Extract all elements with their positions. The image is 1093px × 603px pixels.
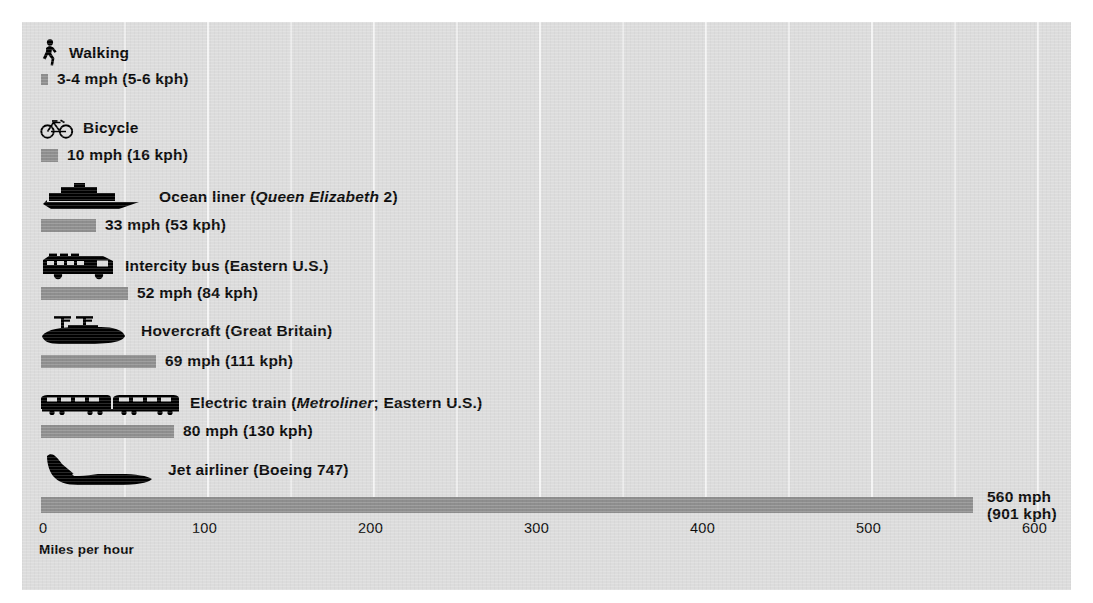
x-tick-600: 600 [1022, 520, 1047, 536]
row-intercity-bus-bar-line: 52 mph (84 kph) [41, 284, 258, 302]
x-tick-400: 400 [690, 520, 715, 536]
intercity-bus-icon [41, 252, 115, 280]
jet-airliner-icon [44, 452, 158, 488]
row-bicycle-header: Bicycle [40, 117, 139, 139]
bar-hovercraft [41, 355, 156, 368]
series-label-electric-train: Electric train (Metroliner; Eastern U.S.… [190, 394, 482, 412]
chart-panel: Walking 3-4 mph (5-6 kph) Bicycle [22, 22, 1071, 590]
gridline-minor-250 [456, 22, 458, 511]
x-axis-title: Miles per hour [39, 542, 134, 557]
row-electric-train-header: Electric train (Metroliner; Eastern U.S.… [40, 390, 482, 416]
bar-jet-airliner [41, 497, 973, 513]
gridline-major-600 [1037, 22, 1039, 511]
row-hovercraft-bar-line: 69 mph (111 kph) [41, 352, 293, 370]
bar-ocean-liner [41, 219, 96, 232]
walking-person-icon [41, 39, 61, 67]
bar-value-walking: 3-4 mph (5-6 kph) [57, 70, 189, 88]
bar-value-jet-mph: 560 mph [987, 488, 1051, 505]
gridline-minor-450 [788, 22, 790, 511]
series-label-walking: Walking [69, 44, 129, 62]
row-walking-bar-line: 3-4 mph (5-6 kph) [41, 70, 189, 88]
x-tick-0: 0 [39, 520, 47, 536]
x-tick-100: 100 [192, 520, 217, 536]
row-intercity-bus-header: Intercity bus (Eastern U.S.) [41, 252, 329, 280]
hovercraft-icon [39, 315, 131, 347]
bar-intercity-bus [41, 287, 128, 300]
bar-value-jet-airliner: 560 mph (901 kph) [987, 488, 1057, 523]
bicycle-icon [40, 117, 74, 139]
row-bicycle-bar-line: 10 mph (16 kph) [41, 146, 188, 164]
bar-value-intercity-bus: 52 mph (84 kph) [137, 284, 258, 302]
row-jet-airliner-header: Jet airliner (Boeing 747) [44, 452, 349, 488]
row-walking-header: Walking [41, 39, 129, 67]
x-tick-500: 500 [856, 520, 881, 536]
bar-value-ocean-liner: 33 mph (53 kph) [105, 216, 226, 234]
series-label-jet-airliner: Jet airliner (Boeing 747) [168, 461, 349, 479]
row-ocean-liner-header: Ocean liner (Queen Elizabeth 2) [41, 182, 398, 212]
chart-figure: Walking 3-4 mph (5-6 kph) Bicycle [0, 0, 1093, 603]
row-jet-airliner-bar-line: 560 mph (901 kph) [41, 488, 1057, 523]
gridline-minor-350 [622, 22, 624, 511]
row-electric-train-bar-line: 80 mph (130 kph) [41, 422, 313, 440]
gridline-major-500 [871, 22, 873, 511]
x-tick-200: 200 [358, 520, 383, 536]
gridline-major-400 [705, 22, 707, 511]
ocean-liner-ship-icon [41, 182, 149, 212]
x-tick-300: 300 [524, 520, 549, 536]
row-ocean-liner-bar-line: 33 mph (53 kph) [41, 216, 226, 234]
series-label-ocean-liner: Ocean liner (Queen Elizabeth 2) [159, 188, 398, 206]
bar-value-electric-train: 80 mph (130 kph) [183, 422, 313, 440]
row-hovercraft-header: Hovercraft (Great Britain) [39, 315, 332, 347]
series-label-bicycle: Bicycle [83, 119, 139, 137]
series-label-intercity-bus: Intercity bus (Eastern U.S.) [125, 257, 329, 275]
bar-bicycle [41, 149, 58, 162]
series-label-hovercraft: Hovercraft (Great Britain) [141, 322, 332, 340]
bar-walking [41, 74, 48, 85]
bar-electric-train [41, 425, 174, 438]
gridline-major-300 [539, 22, 541, 511]
electric-train-icon [40, 390, 180, 416]
bar-value-hovercraft: 69 mph (111 kph) [165, 352, 293, 370]
gridline-minor-550 [954, 22, 956, 511]
gridline-major-200 [373, 22, 375, 511]
bar-value-bicycle: 10 mph (16 kph) [67, 146, 188, 164]
